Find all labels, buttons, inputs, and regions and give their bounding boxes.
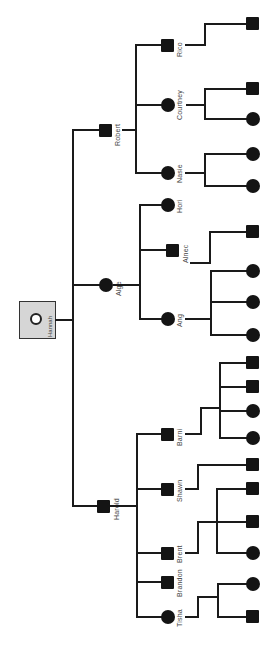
connector [217, 583, 248, 585]
connector [185, 318, 211, 320]
node-tisha-child-1[interactable] [246, 577, 260, 591]
node-courtney[interactable] [161, 98, 175, 112]
connector [219, 410, 248, 412]
label-brent: Brent [176, 545, 183, 563]
connector [55, 319, 73, 321]
node-brent-child-2[interactable] [246, 515, 259, 528]
node-barni-child-1[interactable] [246, 356, 259, 369]
branch-line [217, 584, 219, 618]
label-hori: Hori [176, 199, 183, 213]
connector [135, 44, 163, 46]
node-barni[interactable] [161, 428, 174, 441]
node-rico[interactable] [161, 39, 174, 52]
connector [136, 433, 163, 435]
label-robert: Robert [114, 124, 121, 146]
label-shawn: Shawn [176, 480, 183, 502]
node-tisha[interactable] [161, 610, 175, 624]
connector [210, 270, 248, 272]
branch-line [139, 205, 141, 320]
connector [185, 44, 205, 46]
branch-line [219, 363, 221, 439]
connector [186, 104, 205, 106]
connector [204, 185, 248, 187]
node-brent[interactable] [161, 547, 174, 560]
node-robert[interactable] [99, 124, 112, 137]
connector [190, 262, 210, 264]
node-alnec-child-1[interactable] [246, 225, 259, 238]
node-hori[interactable] [161, 198, 175, 212]
connector [136, 581, 163, 583]
connector [210, 334, 248, 336]
female-ring-icon [30, 313, 42, 325]
label-ang: Ang [176, 314, 183, 327]
connector [135, 172, 163, 174]
node-shawn-child-1[interactable] [246, 458, 259, 471]
node-alnec[interactable] [166, 244, 179, 257]
connector [216, 488, 248, 490]
branch-line [204, 89, 206, 120]
connector [204, 88, 248, 90]
node-barni-child-3[interactable] [246, 404, 260, 418]
node-barni-child-4[interactable] [246, 431, 260, 445]
connector [136, 488, 163, 490]
node-tisha-child-2[interactable] [246, 610, 259, 623]
branch-line [204, 24, 206, 46]
connector [219, 362, 248, 364]
connector [113, 284, 140, 286]
branch-line [200, 408, 202, 435]
connector [219, 437, 248, 439]
connector [197, 464, 248, 466]
node-ang-child-3[interactable] [246, 328, 260, 342]
root-label: Hannah [47, 316, 53, 337]
branch-line [197, 597, 199, 618]
node-nasie-child-2[interactable] [246, 179, 260, 193]
label-courtney: Courtney [176, 90, 183, 120]
trunk-line [72, 130, 74, 507]
label-barni: Barni [176, 429, 183, 446]
connector [122, 129, 136, 131]
connector [217, 616, 248, 618]
branch-line [197, 465, 199, 490]
node-ang-child-2[interactable] [246, 295, 260, 309]
node-courtney-child-2[interactable] [246, 112, 260, 126]
node-barni-child-2[interactable] [246, 380, 259, 393]
connector [110, 505, 137, 507]
branch-line [210, 271, 212, 336]
connector [200, 407, 220, 409]
node-brent-child-1[interactable] [246, 482, 259, 495]
node-nasie[interactable] [161, 166, 175, 180]
node-alge[interactable] [99, 278, 113, 292]
connector [219, 386, 248, 388]
node-ang[interactable] [161, 312, 175, 326]
branch-line [209, 232, 211, 264]
label-nasie: Nasie [176, 164, 183, 183]
connector [136, 616, 163, 618]
label-harold: Harold [113, 498, 120, 520]
connector [185, 433, 201, 435]
branch-line [197, 522, 199, 554]
node-rico-child-1[interactable] [246, 17, 259, 30]
connector [216, 521, 248, 523]
node-brent-child-3[interactable] [246, 546, 260, 560]
node-brandon[interactable] [161, 576, 174, 589]
node-harold[interactable] [97, 500, 110, 513]
connector [209, 231, 248, 233]
node-ang-child-1[interactable] [246, 264, 260, 278]
connector [204, 153, 248, 155]
node-courtney-child-1[interactable] [246, 82, 259, 95]
connector [135, 104, 163, 106]
connector [136, 552, 163, 554]
connector [197, 521, 217, 523]
connector [210, 301, 248, 303]
connector [185, 172, 205, 174]
connector [139, 249, 167, 251]
connector [216, 552, 248, 554]
label-rico: Rico [176, 42, 183, 57]
root-node-hannah[interactable]: Hannah [19, 301, 56, 339]
node-nasie-child-1[interactable] [246, 147, 260, 161]
label-tisha: Tisha [176, 609, 183, 627]
node-shawn[interactable] [161, 483, 174, 496]
label-brandon: Brandon [176, 569, 183, 597]
connector [197, 596, 218, 598]
connector [139, 204, 163, 206]
